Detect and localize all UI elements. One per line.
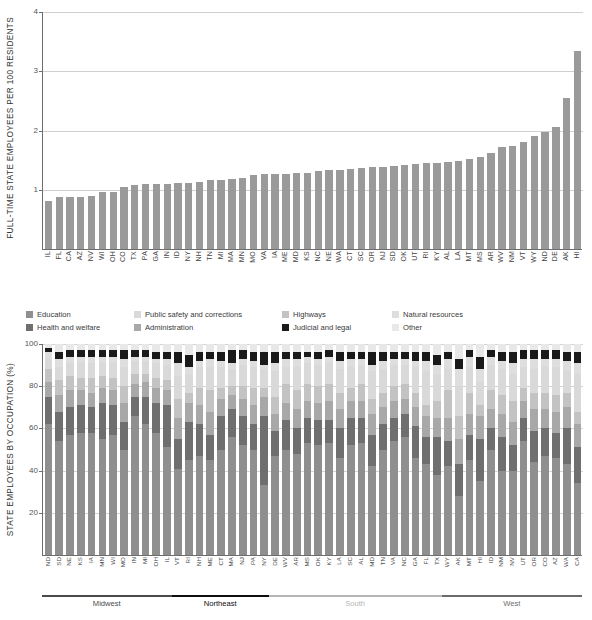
stack-segment xyxy=(152,378,160,389)
stack-segment xyxy=(45,359,53,370)
legend-item[interactable]: Highways xyxy=(282,311,392,319)
legend-item[interactable]: Judicial and legal xyxy=(282,324,392,332)
bar-column xyxy=(162,12,173,249)
legend-item[interactable]: Public safety and corrections xyxy=(134,311,282,319)
stack-segment xyxy=(55,395,63,412)
x-tick-label-text: ID xyxy=(173,251,180,258)
bar-column xyxy=(550,12,561,249)
stack-segment xyxy=(509,374,517,401)
x-tick-label-text: VA xyxy=(389,557,396,565)
x-tick-label: VA xyxy=(258,251,269,295)
legend-item[interactable]: Education xyxy=(26,311,134,319)
bar xyxy=(347,169,354,249)
stack-segment xyxy=(466,435,474,460)
x-tick-label-text: MT xyxy=(465,557,472,566)
bar xyxy=(412,164,419,249)
legend-swatch-icon xyxy=(26,324,33,331)
stack-segment xyxy=(336,393,344,410)
stack-segment xyxy=(444,359,452,370)
bar xyxy=(304,173,311,249)
stack-segment xyxy=(293,428,301,453)
stack-segment xyxy=(55,441,63,555)
top-chart-plot-area: 1234 xyxy=(42,12,583,249)
x-tick-label: NH xyxy=(193,251,204,295)
legend-item[interactable]: Administration xyxy=(134,324,282,332)
bar xyxy=(153,184,160,249)
bar-column xyxy=(540,12,551,249)
stacked-bar-column xyxy=(75,344,86,555)
legend-item[interactable]: Other xyxy=(392,324,496,332)
legend-item[interactable]: Health and welfare xyxy=(26,324,134,332)
x-tick-label: KS xyxy=(74,557,85,595)
legend-item[interactable]: Natural resources xyxy=(392,311,496,319)
x-tick-label: MA xyxy=(226,251,237,295)
stack-segment xyxy=(196,405,204,424)
x-tick-label-text: IN xyxy=(130,557,137,563)
stack-segment xyxy=(88,363,96,378)
region-underline xyxy=(442,595,582,597)
x-tick-label-text: ME xyxy=(281,251,288,262)
x-tick-label-text: ND xyxy=(44,557,51,566)
x-tick-label: AZ xyxy=(549,557,560,595)
stack-segment xyxy=(541,367,549,392)
bar xyxy=(99,192,106,249)
stack-segment xyxy=(293,409,301,428)
x-tick-label-text: NY xyxy=(184,251,191,261)
stacked-bar-column xyxy=(507,344,518,555)
stack-segment xyxy=(260,485,268,555)
x-tick-label: MI xyxy=(139,557,150,595)
x-tick-label: WA xyxy=(334,251,345,295)
bar xyxy=(56,197,63,249)
stack-segment xyxy=(358,344,366,352)
legend-label: Natural resources xyxy=(403,311,463,319)
bar-column xyxy=(173,12,184,249)
x-tick-label: MS xyxy=(474,251,485,295)
stack-segment xyxy=(304,418,312,443)
bar xyxy=(336,170,343,249)
x-tick-label-text: NJ xyxy=(379,251,386,260)
stack-segment xyxy=(476,344,484,357)
stack-segment xyxy=(401,344,409,352)
bar-column xyxy=(281,12,292,249)
stacked-bar xyxy=(163,344,171,555)
x-tick-label-text: MN xyxy=(98,557,105,567)
stack-segment xyxy=(77,378,85,391)
stack-segment xyxy=(217,388,225,399)
stack-segment xyxy=(174,376,182,399)
stacked-bar xyxy=(552,344,560,555)
stack-segment xyxy=(368,414,376,435)
stack-segment xyxy=(433,437,441,475)
stack-segment xyxy=(120,350,128,358)
stack-segment xyxy=(433,374,441,401)
stack-segment xyxy=(487,390,495,409)
stack-segment xyxy=(563,428,571,464)
stack-segment xyxy=(152,363,160,378)
top-chart-bars xyxy=(43,12,583,249)
legend-label: Administration xyxy=(145,324,193,332)
stacked-bar-column xyxy=(205,344,216,555)
x-tick-label: WY xyxy=(528,251,539,295)
x-tick-label: VT xyxy=(172,557,183,595)
stack-segment xyxy=(358,384,366,401)
x-tick-label-text: SD xyxy=(55,557,62,566)
stack-segment xyxy=(206,367,214,390)
stack-segment xyxy=(325,384,333,401)
x-tick-label: TN xyxy=(377,557,388,595)
stack-segment xyxy=(379,361,387,369)
x-tick-label: WV xyxy=(280,557,291,595)
stacked-bar xyxy=(45,344,53,555)
region-underline xyxy=(42,595,172,597)
stack-segment xyxy=(520,441,528,555)
x-tick-label-text: TN xyxy=(206,251,213,261)
bar-column xyxy=(345,12,356,249)
stack-segment xyxy=(390,344,398,352)
stack-segment xyxy=(206,460,214,555)
stack-segment xyxy=(498,471,506,555)
legend-label: Education xyxy=(37,311,71,319)
bar xyxy=(315,171,322,249)
bar xyxy=(282,174,289,249)
stacked-bar-column xyxy=(442,344,453,555)
x-tick-label: RI xyxy=(182,557,193,595)
bar-column xyxy=(216,12,227,249)
stack-segment xyxy=(250,424,258,449)
